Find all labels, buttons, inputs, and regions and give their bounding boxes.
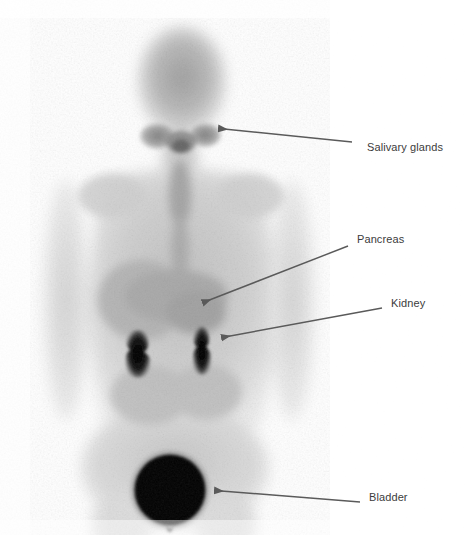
- arrow-pancreas: [203, 246, 348, 303]
- annotation-overlay: [0, 0, 465, 558]
- arrow-kidney: [222, 308, 382, 338]
- label-salivary-glands: Salivary glands: [367, 141, 443, 153]
- label-kidney: Kidney: [391, 297, 425, 309]
- scan-viewer: Salivary glands Pancreas Kidney Bladder: [0, 0, 465, 558]
- label-bladder: Bladder: [369, 491, 408, 503]
- arrow-salivary-glands: [219, 129, 352, 143]
- label-pancreas: Pancreas: [357, 233, 404, 245]
- arrow-bladder: [215, 491, 360, 503]
